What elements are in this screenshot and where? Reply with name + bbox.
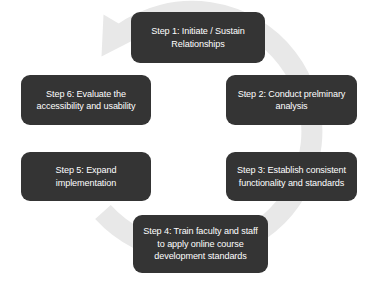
- step-label-4: Step 4: Train faculty and staff to apply…: [143, 225, 258, 262]
- cycle-diagram: Step 1: Initiate / Sustain Relationships…: [0, 0, 374, 286]
- step-box-6[interactable]: Step 6: Evaluate the accessibility and u…: [21, 75, 151, 125]
- step-box-2[interactable]: Step 2: Conduct prelminary analysis: [226, 75, 357, 125]
- step-label-1: Step 1: Initiate / Sustain Relationships: [151, 25, 244, 50]
- step-box-3[interactable]: Step 3: Establish consistent functionali…: [226, 152, 357, 201]
- step-label-3: Step 3: Establish consistent functionali…: [237, 164, 346, 189]
- step-label-5: Step 5: Expand implementation: [56, 164, 117, 189]
- step-label-2: Step 2: Conduct prelminary analysis: [238, 88, 346, 113]
- step-box-4[interactable]: Step 4: Train faculty and staff to apply…: [133, 215, 268, 273]
- step-label-6: Step 6: Evaluate the accessibility and u…: [37, 88, 136, 113]
- step-box-1[interactable]: Step 1: Initiate / Sustain Relationships: [131, 12, 265, 63]
- step-box-5[interactable]: Step 5: Expand implementation: [21, 152, 151, 201]
